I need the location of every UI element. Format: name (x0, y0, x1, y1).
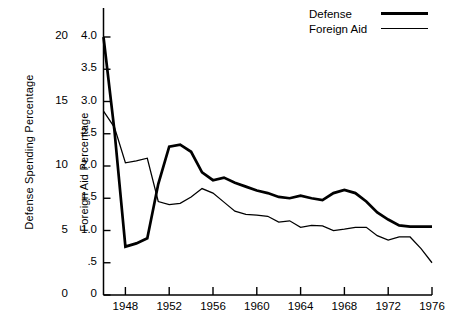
series-line-defense (104, 37, 433, 247)
series-line-foreign-aid (104, 111, 433, 263)
legend-item-defense: Defense (309, 6, 428, 21)
thin-line-swatch (381, 28, 428, 29)
legend-item-foreign-aid: Foreign Aid (309, 21, 428, 36)
thick-line-swatch (381, 12, 428, 15)
x-axis-tickmarks (125, 287, 432, 295)
legend-label-foreign-aid: Foreign Aid (309, 23, 381, 35)
chart-legend: Defense Foreign Aid (309, 6, 428, 36)
legend-label-defense: Defense (309, 8, 381, 20)
